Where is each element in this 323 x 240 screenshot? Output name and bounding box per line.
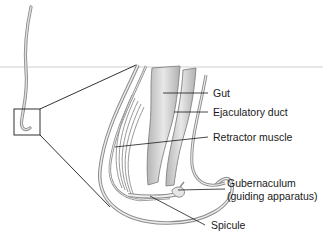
- label-ejaculatory-duct: Ejaculatory duct: [213, 106, 288, 118]
- label-gut: Gut: [213, 87, 230, 99]
- whole-worm-outline: [21, 7, 31, 130]
- label-retractor-muscle: Retractor muscle: [213, 131, 292, 143]
- leader-gubernaculum: [178, 189, 225, 190]
- label-spicule: Spicule: [211, 219, 245, 231]
- label-gubernaculum: Gubernaculum: [227, 177, 296, 189]
- nematode-male-tail-diagram: [0, 0, 323, 240]
- leader-spicule: [150, 196, 205, 225]
- label-gubernaculum-sub: (guiding apparatus): [227, 190, 317, 202]
